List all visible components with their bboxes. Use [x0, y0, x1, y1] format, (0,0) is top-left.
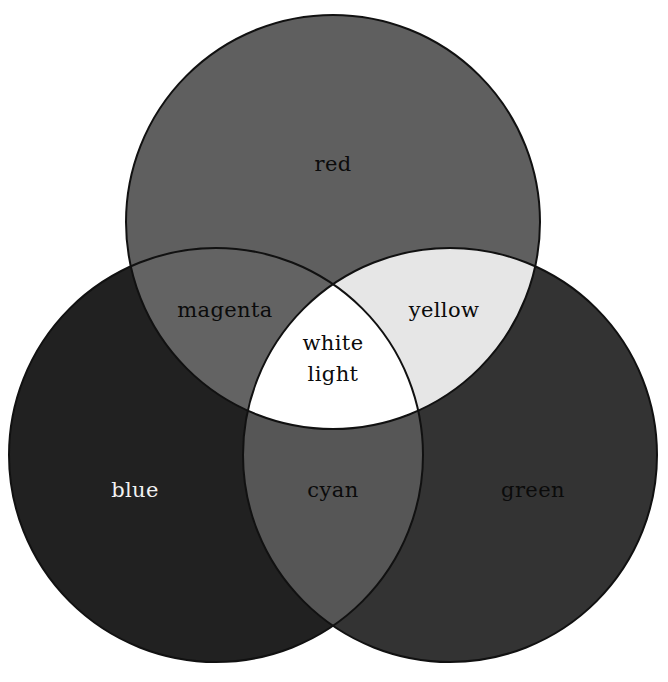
label-green: green — [501, 478, 565, 502]
label-white-light-line2: light — [308, 362, 359, 386]
label-white-light-line1: white — [302, 331, 363, 355]
label-cyan: cyan — [307, 478, 358, 502]
label-yellow: yellow — [408, 298, 480, 322]
label-red: red — [314, 152, 351, 176]
label-blue: blue — [111, 478, 159, 502]
venn-diagram-canvas: red magenta yellow white light blue cyan… — [0, 0, 668, 682]
label-magenta: magenta — [177, 298, 273, 322]
venn-diagram: red magenta yellow white light blue cyan… — [0, 0, 668, 682]
